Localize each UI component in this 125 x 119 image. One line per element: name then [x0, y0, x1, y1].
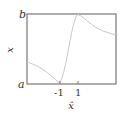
y-tick-b: b	[19, 8, 26, 21]
data-curve	[27, 15, 116, 83]
y-axis-label: x	[4, 47, 15, 53]
y-tick-a: a	[18, 78, 25, 91]
plot-frame	[27, 14, 116, 84]
chart: b a -1 1 x x̂	[0, 0, 125, 119]
x-tick-label-1: 1	[75, 87, 81, 98]
x-axis-label: x̂	[68, 100, 74, 111]
x-tick-label-neg1: -1	[54, 87, 64, 98]
